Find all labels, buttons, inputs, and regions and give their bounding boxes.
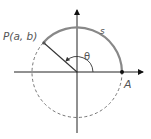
label-point-p: P(a, b) xyxy=(3,30,37,42)
label-angle-theta: θ xyxy=(84,51,90,62)
arc-s xyxy=(43,27,122,72)
point-a-dot xyxy=(120,70,124,74)
label-arc-s: s xyxy=(100,26,105,36)
unit-circle-diagram: P(a, b) A s θ xyxy=(0,0,151,139)
point-p-dot xyxy=(42,41,45,44)
label-point-a: A xyxy=(123,78,132,91)
